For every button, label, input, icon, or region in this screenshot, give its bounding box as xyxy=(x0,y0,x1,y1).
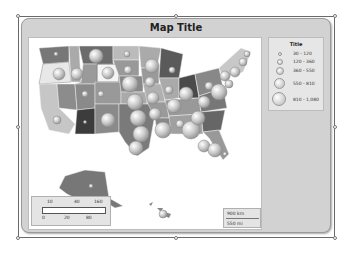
resize-handle-right[interactable] xyxy=(333,125,337,129)
legend-item-label: 550 - 810 xyxy=(293,81,315,86)
resize-handle-top-right[interactable] xyxy=(333,14,337,18)
legend-item-label: 810 - 1,080 xyxy=(293,97,319,102)
color-scale-top-tick: 40 xyxy=(74,199,80,204)
bubble-size-icon xyxy=(276,67,284,75)
distance-scale: 900 km 550 mi xyxy=(223,208,261,228)
color-scale-bottom-tick: 20 xyxy=(64,215,70,220)
color-scale-bottom-tick: 0 xyxy=(42,215,45,220)
legend-item-label: 120 - 360 xyxy=(293,59,315,64)
size-legend[interactable]: Title 30 - 120 120 - 360 360 - 550 550 -… xyxy=(268,37,324,111)
color-scale-top-tick: 160 xyxy=(94,199,103,204)
color-scale-bottom-tick: 80 xyxy=(86,215,92,220)
resize-handle-bottom-left[interactable] xyxy=(16,236,20,240)
map-chart-frame[interactable]: Map Title xyxy=(21,18,331,233)
distance-scale-km: 900 km xyxy=(227,211,244,216)
map-title: Map Title xyxy=(22,22,330,33)
distance-scale-bar xyxy=(226,218,259,219)
color-scale-top-tick: 10 xyxy=(47,199,53,204)
map-plot-area[interactable]: 10 40 160 0 20 80 900 km 550 mi xyxy=(28,37,262,230)
resize-handle-bottom[interactable] xyxy=(174,236,178,240)
legend-item: 810 - 1,080 xyxy=(269,92,325,104)
color-scale-bar xyxy=(42,207,106,214)
distance-scale-mi: 550 mi xyxy=(227,221,243,226)
legend-item-label: 360 - 550 xyxy=(293,68,315,73)
resize-handle-left[interactable] xyxy=(16,125,20,129)
legend-item: 550 - 810 xyxy=(269,77,325,89)
legend-item: 360 - 550 xyxy=(269,65,325,77)
resize-handle-top-left[interactable] xyxy=(16,14,20,18)
legend-title: Title xyxy=(269,41,323,47)
color-scale-legend: 10 40 160 0 20 80 xyxy=(31,196,111,226)
bubble-size-icon xyxy=(272,92,286,106)
bubble-size-icon xyxy=(274,78,285,89)
resize-handle-bottom-right[interactable] xyxy=(333,236,337,240)
